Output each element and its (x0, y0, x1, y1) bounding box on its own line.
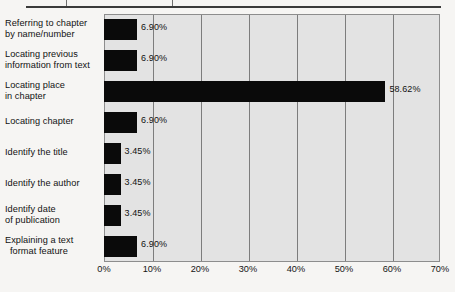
bar-value-label: 3.45% (125, 177, 151, 187)
category-axis-labels: Referring to chapterby name/numberLocati… (0, 14, 100, 262)
x-tick-label: 0% (97, 264, 110, 274)
bar-value-label: 3.45% (125, 146, 151, 156)
bar-row: 3.45% (104, 138, 440, 169)
bar-row: 6.90% (104, 14, 440, 45)
category-label: Identify the author (5, 178, 103, 189)
bar-value-label: 6.90% (141, 53, 167, 63)
bar-value-label: 6.90% (141, 22, 167, 32)
category-label-line: Locating place (5, 80, 103, 91)
bar-rows: 6.90%6.90%58.62%6.90%3.45%3.45%3.45%6.90… (104, 14, 440, 262)
category-label: Locating previousinformation from text (5, 49, 103, 71)
bar-row: 6.90% (104, 45, 440, 76)
x-tick-label: 30% (239, 264, 258, 274)
x-tick-label: 50% (335, 264, 354, 274)
bar-row: 3.45% (104, 200, 440, 231)
x-axis-tick-labels: 0%10%20%30%40%50%60%70% (104, 264, 440, 280)
category-label-line: Identify date (5, 204, 103, 215)
bar (104, 143, 121, 164)
category-label-line: Explaining a text (5, 235, 103, 246)
category-label-line: information from text (5, 60, 103, 71)
bar-row: 6.90% (104, 107, 440, 138)
bar-row: 58.62% (104, 76, 440, 107)
category-label-line: Identify the author (5, 178, 103, 189)
category-label-line: by name/number (5, 29, 103, 40)
category-label: Locating chapter (5, 116, 103, 127)
x-tick-label: 70% (431, 264, 450, 274)
bar-value-label: 58.62% (389, 84, 420, 94)
category-label: Identify dateof publication (5, 204, 103, 226)
category-label-line: in chapter (5, 91, 103, 102)
x-tick-label: 40% (287, 264, 306, 274)
bar-value-label: 6.90% (141, 239, 167, 249)
horizontal-bar-chart: Referring to chapterby name/numberLocati… (0, 0, 455, 292)
bar-value-label: 3.45% (125, 208, 151, 218)
bar (104, 236, 137, 257)
category-label-line: format feature (5, 246, 103, 257)
bar-row: 3.45% (104, 169, 440, 200)
bar-value-label: 6.90% (141, 115, 167, 125)
bar (104, 205, 121, 226)
category-label: Referring to chapterby name/number (5, 18, 103, 40)
category-label-line: Locating chapter (5, 116, 103, 127)
category-label-line: Identify the title (5, 147, 103, 158)
bar (104, 19, 137, 40)
x-tick-label: 20% (191, 264, 210, 274)
category-label-line: Referring to chapter (5, 18, 103, 29)
bar-row: 6.90% (104, 231, 440, 262)
bar (104, 112, 137, 133)
category-label: Locating placein chapter (5, 80, 103, 102)
category-label: Explaining a textformat feature (5, 235, 103, 257)
category-label: Identify the title (5, 147, 103, 158)
category-label-line: of publication (5, 215, 103, 226)
category-label-line: Locating previous (5, 49, 103, 60)
bar (104, 50, 137, 71)
x-tick-label: 10% (143, 264, 162, 274)
bar (104, 81, 385, 102)
x-tick-label: 60% (383, 264, 402, 274)
bar (104, 174, 121, 195)
